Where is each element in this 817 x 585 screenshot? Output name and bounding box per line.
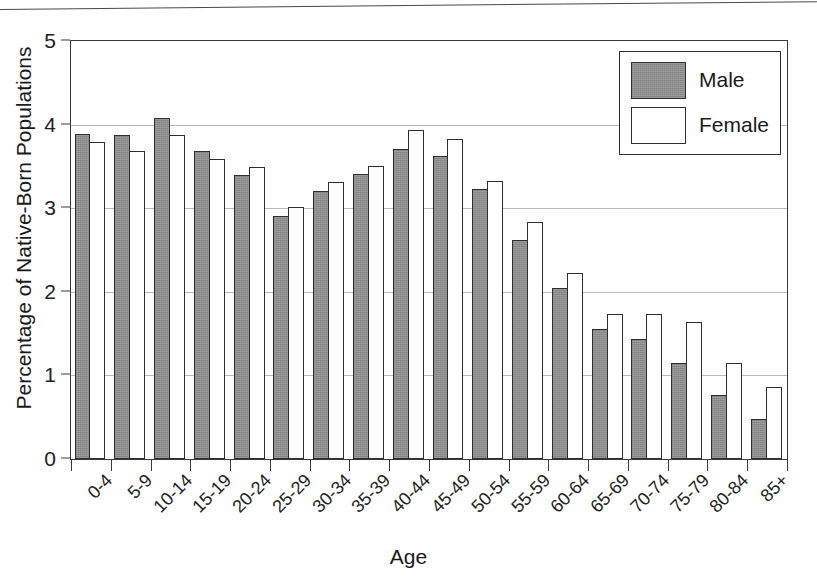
y-tick-label-4: 4: [44, 113, 56, 134]
y-tick-label-5: 5: [44, 30, 56, 51]
x-tick-label: 80-84: [706, 470, 753, 517]
y-axis: 012345: [0, 40, 70, 460]
bar-group: [270, 41, 310, 459]
x-tick-label: 25-29: [268, 470, 315, 517]
y-tick-mark-0: [61, 458, 70, 459]
bar-female: [447, 139, 463, 459]
bar-female: [766, 387, 782, 459]
bar-male: [393, 149, 409, 459]
bar-group: [190, 41, 230, 459]
x-tick-label: 0-4: [84, 470, 117, 503]
bar-female: [527, 222, 543, 459]
bar-male: [512, 240, 528, 459]
bar-male: [75, 134, 91, 459]
bar-female: [129, 151, 145, 459]
x-tick-label: 65-69: [587, 470, 634, 517]
bar-group: [310, 41, 350, 459]
bar-male: [194, 151, 210, 459]
y-tick-mark-4: [61, 123, 70, 124]
bar-male: [433, 156, 449, 459]
x-tick-label: 20-24: [229, 470, 276, 517]
x-tick-label: 70-74: [626, 470, 673, 517]
bar-female: [288, 207, 304, 459]
legend-swatch-male-icon: [631, 62, 686, 99]
x-tick-label: 30-34: [308, 470, 355, 517]
bar-group: [111, 41, 151, 459]
bar-male: [353, 174, 369, 459]
bar-group: [469, 41, 509, 459]
legend-label-male: Male: [699, 68, 745, 92]
x-tick-label: 60-64: [547, 470, 594, 517]
x-axis-labels: 0-45-910-1415-1920-2425-2930-3435-3940-4…: [71, 470, 787, 540]
bar-female: [487, 181, 503, 459]
legend-label-female: Female: [699, 113, 769, 137]
x-tick-label: 45-49: [427, 470, 474, 517]
x-tick-label: 75-79: [666, 470, 713, 517]
bar-male: [313, 191, 329, 459]
x-tick-label: 50-54: [467, 470, 514, 517]
x-tick-label: 15-19: [189, 470, 236, 517]
bar-female: [567, 273, 583, 459]
bar-male: [552, 288, 568, 459]
bar-male: [114, 135, 130, 459]
bar-female: [726, 363, 742, 459]
bar-group: [71, 41, 111, 459]
bar-group: [151, 41, 191, 459]
y-tick-mark-3: [61, 207, 70, 208]
x-tick-label: 35-39: [348, 470, 395, 517]
bar-female: [607, 314, 623, 459]
bar-female: [368, 166, 384, 459]
bar-male: [711, 395, 727, 459]
bar-male: [671, 363, 687, 459]
x-tick-label: 5-9: [123, 470, 156, 503]
x-tick-mark: [787, 460, 788, 471]
bar-group: [429, 41, 469, 459]
x-tick-label: 10-14: [149, 470, 196, 517]
bar-group: [509, 41, 549, 459]
bar-male: [631, 339, 647, 459]
bar-group: [230, 41, 270, 459]
y-tick-mark-5: [61, 40, 70, 41]
y-tick-label-0: 0: [44, 448, 56, 469]
bar-male: [751, 419, 767, 459]
y-tick-label-3: 3: [44, 197, 56, 218]
bar-female: [646, 314, 662, 459]
x-tick-label: 40-44: [388, 470, 435, 517]
legend-item-male: Male: [631, 61, 745, 99]
bar-female: [89, 142, 105, 459]
bar-group: [548, 41, 588, 459]
y-tick-mark-1: [61, 374, 70, 375]
bar-female: [209, 159, 225, 459]
bar-male: [273, 216, 289, 459]
bar-male: [472, 189, 488, 459]
bar-male: [234, 175, 250, 459]
legend: Male Female: [619, 51, 781, 155]
bar-female: [408, 130, 424, 459]
y-tick-mark-2: [61, 290, 70, 291]
figure-page: Percentage of Native-Born Populations 01…: [0, 0, 817, 585]
bar-chart: Percentage of Native-Born Populations 01…: [0, 0, 817, 585]
bar-male: [154, 118, 170, 459]
x-tick-label: 55-59: [507, 470, 554, 517]
y-tick-label-1: 1: [44, 364, 56, 385]
legend-swatch-female-icon: [631, 107, 686, 144]
y-tick-label-2: 2: [44, 280, 56, 301]
bar-female: [249, 167, 265, 459]
bar-female: [686, 322, 702, 459]
bar-male: [592, 329, 608, 459]
bar-female: [169, 135, 185, 459]
x-tick-label: 85+: [757, 470, 793, 506]
bar-group: [389, 41, 429, 459]
bar-female: [328, 182, 344, 459]
bar-group: [349, 41, 389, 459]
x-axis-title: Age: [0, 545, 817, 569]
legend-item-female: Female: [631, 106, 769, 144]
